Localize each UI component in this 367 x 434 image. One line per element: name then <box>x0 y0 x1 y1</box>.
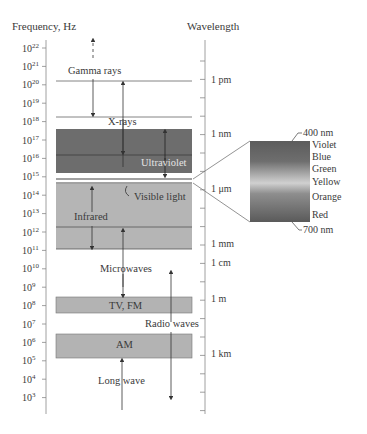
frequency-tick-label: 1021 <box>22 60 40 72</box>
radio-waves-label: Radio waves <box>145 318 199 329</box>
color-label-yellow: Yellow <box>312 176 341 187</box>
frequency-tick-label: 1018 <box>22 115 40 127</box>
frequency-tick-label: 106 <box>22 336 36 348</box>
spectrum-svg: Frequency, Hz Wavelength 102210211020101… <box>0 0 367 434</box>
long-wave-label: Long wave <box>98 375 145 386</box>
visible-spectrum-swatch <box>250 141 310 222</box>
frequency-tick-label: 107 <box>22 318 36 330</box>
frequency-tick-label: 1015 <box>22 170 40 182</box>
microwaves-label: Microwaves <box>100 263 152 274</box>
frequency-tick-label: 108 <box>22 299 36 311</box>
wavelength-label: 1 pm <box>211 74 232 85</box>
wavelength-label: 1 cm <box>211 257 231 268</box>
frequency-ticks: 1022102110201019101810171016101510141013… <box>22 42 46 404</box>
frequency-tick-label: 1017 <box>22 134 40 146</box>
color-label-orange: Orange <box>312 191 342 202</box>
frequency-axis-title: Frequency, Hz <box>12 20 76 32</box>
color-label-violet: Violet <box>312 139 337 150</box>
color-label-red: Red <box>312 209 328 220</box>
wavelength-label: 1 μm <box>211 183 232 194</box>
tv-fm-label: TV, FM <box>109 300 143 311</box>
gamma-rays-label: Gamma rays <box>68 65 121 76</box>
wavelength-label: 1 m <box>211 293 227 304</box>
wavelength-label: 1 mm <box>211 238 234 249</box>
400nm-label: 400 nm <box>303 127 334 138</box>
frequency-tick-label: 1016 <box>22 152 40 164</box>
frequency-tick-label: 109 <box>22 281 36 293</box>
frequency-tick-label: 1010 <box>22 262 40 274</box>
frequency-tick-label: 1014 <box>22 189 40 201</box>
visible-color-labels: VioletBlueGreenYellowOrangeRed <box>312 139 342 220</box>
x-rays-label: X-rays <box>108 116 137 127</box>
frequency-tick-label: 1012 <box>22 226 40 238</box>
frequency-tick-label: 1019 <box>22 97 40 109</box>
color-label-blue: Blue <box>312 151 331 162</box>
visible-light-label: Visible light <box>134 191 186 202</box>
700nm-label: 700 nm <box>303 224 334 235</box>
frequency-tick-label: 1020 <box>22 78 40 90</box>
wavelength-label: 1 km <box>211 348 232 359</box>
color-label-green: Green <box>312 163 336 174</box>
wavelength-axis-title: Wavelength <box>187 20 240 32</box>
frequency-tick-label: 103 <box>22 391 36 403</box>
ultraviolet-label: Ultraviolet <box>141 157 187 168</box>
frequency-tick-label: 105 <box>22 354 36 366</box>
am-label: AM <box>116 339 134 350</box>
frequency-tick-label: 1013 <box>22 207 40 219</box>
700nm-leader <box>292 222 302 230</box>
frequency-tick-label: 104 <box>22 373 36 385</box>
infrared-label: Infrared <box>74 211 109 222</box>
inset-connector-top <box>193 141 250 179</box>
em-spectrum-diagram: Frequency, Hz Wavelength 102210211020101… <box>0 0 367 434</box>
400nm-leader <box>292 133 302 141</box>
wavelength-label: 1 nm <box>211 128 232 139</box>
frequency-tick-label: 1022 <box>22 42 40 54</box>
frequency-tick-label: 1011 <box>22 244 39 256</box>
